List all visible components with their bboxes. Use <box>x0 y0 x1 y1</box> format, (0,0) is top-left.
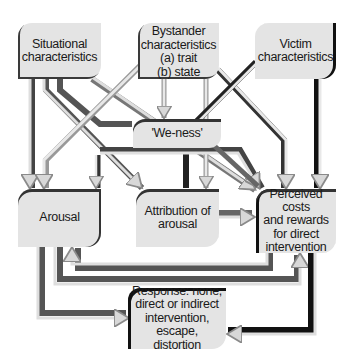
node-label: Victim characteristics <box>258 38 333 65</box>
arrow-victim-to-perceived <box>317 79 320 188</box>
node-attribution-of-arousal: Attribution of arousal <box>136 189 219 247</box>
node-label: Arousal <box>39 211 79 225</box>
node-arousal: Arousal <box>18 189 101 247</box>
arrow-perceived-to-arousal <box>72 248 270 268</box>
node-label: Perceived costs and rewards for direct i… <box>263 188 329 254</box>
arrow-situational-to-attribution <box>44 79 142 188</box>
node-label: 'We-ness' <box>151 127 202 141</box>
node-bystander-characteristics: Bystander characteristics (a) trait (b) … <box>138 23 219 79</box>
node-we-ness: 'We-ness' <box>133 119 221 148</box>
node-perceived-costs-rewards: Perceived costs and rewards for direct i… <box>256 189 336 253</box>
node-response: Response: none, direct or indirect inter… <box>128 288 226 349</box>
arrow-attribution-to-perceived <box>219 213 252 217</box>
node-label: Attribution of arousal <box>145 205 211 232</box>
node-label: Situational characteristics <box>22 38 97 65</box>
node-victim-characteristics: Victim characteristics <box>255 23 336 79</box>
node-label: Bystander characteristics (a) trait (b) … <box>141 25 216 79</box>
arrow-situational-to-arousal <box>30 79 32 188</box>
node-label: Response: none, direct or indirect inter… <box>131 285 223 353</box>
node-situational-characteristics: Situational characteristics <box>18 23 101 79</box>
